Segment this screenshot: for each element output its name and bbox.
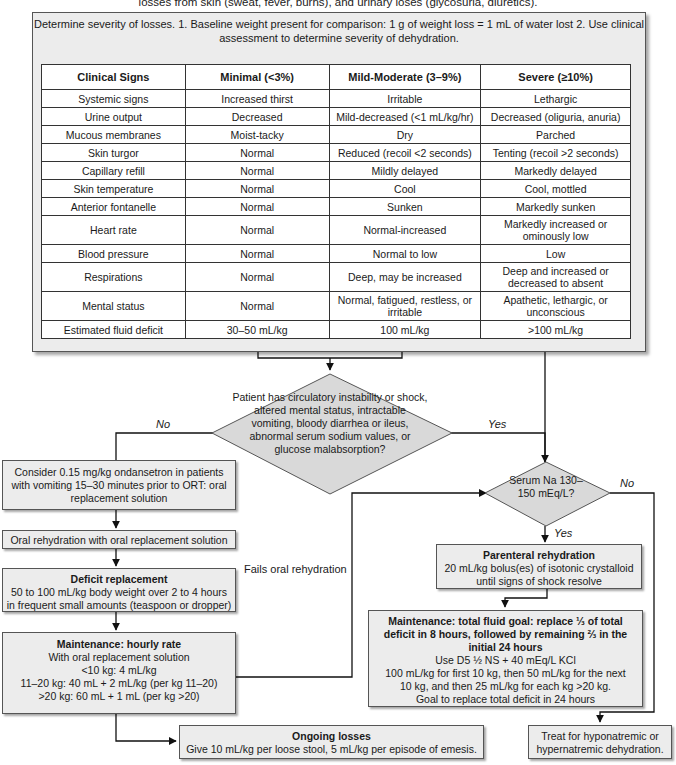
decision-line: malabsorption? bbox=[314, 443, 386, 455]
maintenance-line: <10 kg: 4 mL/kg bbox=[3, 664, 235, 677]
maintenance-total-title: deficit in 8 hours, followed by remainin… bbox=[369, 628, 642, 641]
decision-line: mEq/L? bbox=[538, 487, 574, 499]
ondansetron-box: Consider 0.15 mg/kg ondansetron in patie… bbox=[2, 460, 236, 510]
bracket-connector bbox=[258, 352, 402, 358]
deficit-line: 50 to 100 mL/kg body weight over 2 to 4 … bbox=[3, 586, 235, 599]
treat-sodium-line: hypernatremic dehydration. bbox=[529, 743, 671, 756]
decision-line: Patient has bbox=[233, 391, 286, 403]
parenteral-line: 20 mL/kg bolus(es) of isotonic crystallo… bbox=[437, 562, 641, 575]
deficit-line: in frequent small amounts (teaspoon or d… bbox=[3, 599, 235, 612]
ongoing-losses-box: Ongoing losses Give 10 mL/kg per loose s… bbox=[179, 725, 484, 759]
maintenance-total-line: 100 mL/kg for first 10 kg, then 50 mL/kg… bbox=[369, 667, 642, 680]
oral-rehydration-box: Oral rehydration with oral replacement s… bbox=[2, 530, 236, 549]
fails-oral-rehydration-label: Fails oral rehydration bbox=[242, 563, 349, 575]
arrow-to-maintenance-total bbox=[505, 589, 547, 607]
ongoing-losses-text: Give 10 mL/kg per loose stool, 5 mL/kg p… bbox=[180, 743, 483, 756]
oral-rehydration-text: Oral rehydration with oral replacement s… bbox=[10, 534, 227, 546]
parenteral-title: Parenteral rehydration bbox=[437, 549, 641, 562]
yes-branch-line bbox=[448, 433, 545, 462]
sodium-decision-no-label: No bbox=[620, 477, 634, 489]
main-decision-question: Patient has circulatory instability or s… bbox=[232, 391, 428, 456]
parenteral-rehydration-box: Parenteral rehydration 20 mL/kg bolus(es… bbox=[436, 544, 642, 589]
no-branch-line bbox=[116, 433, 213, 460]
sodium-decision-yes-label: Yes bbox=[554, 527, 572, 539]
main-decision-no-label: No bbox=[156, 418, 170, 430]
decision-line: circulatory instability bbox=[288, 391, 382, 403]
parenteral-line: until signs of shock resolve bbox=[437, 575, 641, 588]
maintenance-hourly-box: Maintenance: hourly rate With oral repla… bbox=[2, 632, 236, 714]
treat-sodium-line: Treat for hyponatremic or bbox=[529, 730, 671, 743]
treat-sodium-box: Treat for hyponatremic or hypernatremic … bbox=[528, 725, 672, 759]
maintenance-total-title: Maintenance: total fluid goal: replace ⅓… bbox=[369, 615, 642, 628]
maintenance-line: >20 kg: 60 mL + 1 mL (per kg >20) bbox=[3, 690, 235, 703]
deficit-replacement-box: Deficit replacement 50 to 100 mL/kg body… bbox=[2, 568, 236, 612]
sodium-decision-question: Serum Na 130–150 mEq/L? bbox=[506, 474, 586, 500]
maintenance-total-line: 10 kg, and then 25 mL/kg for each kg >20… bbox=[369, 680, 642, 693]
arrow-to-ongoing-losses bbox=[116, 714, 176, 741]
maintenance-hourly-title: Maintenance: hourly rate bbox=[3, 638, 235, 651]
ongoing-losses-title: Ongoing losses bbox=[180, 730, 483, 743]
decision-line: Serum Na bbox=[509, 474, 556, 486]
deficit-replacement-title: Deficit replacement bbox=[3, 573, 235, 586]
maintenance-total-box: Maintenance: total fluid goal: replace ⅓… bbox=[368, 610, 643, 707]
maintenance-line: With oral replacement solution bbox=[3, 651, 235, 664]
main-decision-yes-label: Yes bbox=[488, 418, 506, 430]
ondansetron-line: replacement solution bbox=[3, 492, 235, 505]
maintenance-total-line: Goal to replace total deficit in 24 hour… bbox=[369, 693, 642, 706]
ondansetron-line: with vomiting 15–30 minutes prior to ORT… bbox=[3, 479, 235, 492]
maintenance-line: 11–20 kg: 40 mL + 2 mL/kg (per kg 11–20) bbox=[3, 677, 235, 690]
maintenance-total-line: Use D5 ½ NS + 40 mEq/L KCl bbox=[369, 654, 642, 667]
ondansetron-line: Consider 0.15 mg/kg ondansetron in patie… bbox=[3, 466, 235, 479]
maintenance-total-title: initial 24 hours bbox=[369, 641, 642, 654]
